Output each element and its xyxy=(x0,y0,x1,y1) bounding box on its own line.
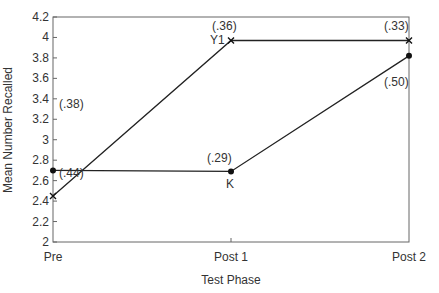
y-tick-label: 2.4 xyxy=(32,194,49,208)
y-tick-label: 3.6 xyxy=(32,71,49,85)
x-tick-label-post1: Post 1 xyxy=(214,250,248,264)
series-label-k: K xyxy=(226,177,234,191)
sd-label-y1-pre: (.44) xyxy=(59,166,84,180)
sd-label-k-post2: (.50) xyxy=(384,75,409,89)
sd-label-y1-post1: (.36) xyxy=(212,19,237,33)
y-tick-label: 2.6 xyxy=(32,174,49,188)
sd-label-k-pre: (.38) xyxy=(59,97,84,111)
y-tick-label: 4 xyxy=(42,30,49,44)
y-tick-label: 3.4 xyxy=(32,92,49,106)
plot-frame xyxy=(53,17,409,242)
series-label-y1: Y1 xyxy=(210,33,225,47)
dot-marker-icon xyxy=(228,168,234,174)
y-tick-label: 2.2 xyxy=(32,215,49,229)
series-group xyxy=(50,38,412,199)
sd-label-y1-post2: (.33) xyxy=(384,19,409,33)
line-chart: 22.22.42.62.833.23.43.63.844.2 Pre Post … xyxy=(0,0,439,293)
y-tick-label: 3.2 xyxy=(32,112,49,126)
y-tick-label: 3.8 xyxy=(32,51,49,65)
y-tick-label: 3 xyxy=(42,133,49,147)
x-tick-label-post2: Post 2 xyxy=(392,250,426,264)
y-axis-title: Mean Number Recalled xyxy=(1,67,15,193)
x-tick-label-pre: Pre xyxy=(44,250,63,264)
y-tick-label: 2.8 xyxy=(32,153,49,167)
dot-marker-icon xyxy=(50,167,56,173)
x-axis-title: Test Phase xyxy=(201,273,261,287)
dot-marker-icon xyxy=(406,53,412,59)
sd-label-k-post1: (.29) xyxy=(207,151,232,165)
y-tick-label: 4.2 xyxy=(32,10,49,24)
y-tick-label: 2 xyxy=(42,235,49,249)
